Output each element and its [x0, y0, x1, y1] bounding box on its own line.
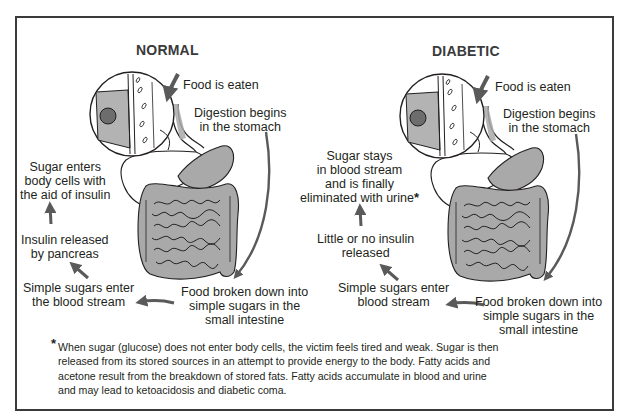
diabetic-digestion-label: Digestion begins in the stomach [503, 107, 595, 135]
normal-insulin-released-label: Insulin released by pancreas [21, 233, 109, 261]
footnote-line: acetone result from the breakdown of sto… [58, 369, 588, 383]
normal-simple-sugars-blood-label: Simple sugars enter the blood stream [23, 281, 134, 309]
diabetic-panel-title: DIABETIC [432, 43, 500, 59]
normal-sugar-enters-cells-label: Sugar enters body cells with the aid of … [20, 160, 110, 202]
normal-panel-title: NORMAL [136, 42, 199, 58]
normal-food-broken-down-label: Food broken down into simple sugars in t… [181, 285, 308, 327]
footnote-line: released from its stored sources in an a… [58, 354, 588, 368]
footnote-line: and may lead to ketoacidosis and diabeti… [58, 383, 588, 397]
urine-footnote-marker: * [414, 190, 419, 205]
diabetic-simple-sugars-blood-label: Simple sugars enter blood stream [338, 281, 449, 309]
footnote-line: When sugar (glucose) does not enter body… [58, 340, 588, 354]
diabetic-sugar-stays-label: Sugar stays in blood stream and is final… [300, 149, 419, 205]
footnote-marker: * [51, 337, 56, 351]
normal-digestion-label: Digestion begins in the stomach [194, 106, 286, 134]
footnote: * When sugar (glucose) does not enter bo… [58, 340, 588, 397]
diabetic-food-eaten-label: Food is eaten [495, 80, 571, 94]
normal-food-eaten-label: Food is eaten [183, 78, 259, 92]
diabetic-food-broken-down-label: Food broken down into simple sugars in t… [475, 295, 602, 337]
diabetic-insulin-label: Little or no insulin released [317, 232, 414, 260]
